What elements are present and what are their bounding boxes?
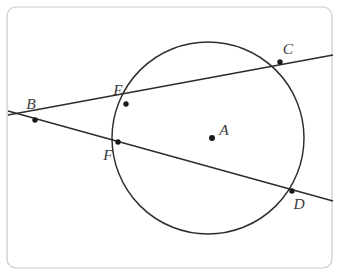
point-label-f: F (102, 146, 113, 163)
point-dot-f (115, 139, 120, 144)
point-dot-c (277, 59, 282, 64)
point-dot-d (289, 188, 294, 193)
point-label-e: E (112, 81, 123, 98)
point-dot-a (209, 135, 215, 141)
point-label-a: A (218, 121, 229, 138)
point-label-d: D (292, 195, 304, 212)
point-label-b: B (26, 95, 36, 112)
diagram-canvas: A B C D E F (0, 0, 339, 275)
geometry-figure: A B C D E F (0, 0, 339, 275)
point-label-c: C (283, 40, 294, 57)
point-dot-e (123, 101, 128, 106)
point-dot-b (32, 117, 37, 122)
